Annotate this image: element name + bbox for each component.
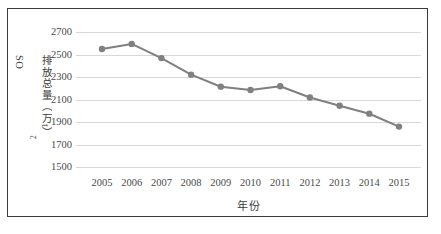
data-point-marker	[307, 94, 313, 100]
y-axis-title-base: SO	[14, 55, 25, 139]
y-axis-title: SO2排放总量（万t）	[26, 9, 42, 185]
plot-container: SO2排放总量（万t） 2700250023002100190017001500…	[8, 9, 429, 218]
x-axis-tick-label: 2009	[210, 177, 231, 189]
chart-figure: SO2排放总量（万t） 2700250023002100190017001500…	[7, 8, 428, 217]
data-point-marker	[247, 87, 253, 93]
data-point-marker	[188, 71, 194, 77]
y-axis-tick-label: 2100	[42, 94, 72, 105]
y-axis-tick-label: 2500	[42, 49, 72, 60]
x-axis-tick-label: 2013	[329, 177, 350, 189]
x-axis-title: 年份	[76, 197, 421, 213]
data-point-marker	[99, 46, 105, 52]
y-axis-tick-label: 2700	[42, 27, 72, 38]
y-axis-tick-labels: 2700250023002100190017001500	[42, 9, 72, 218]
x-axis-tick-label: 2006	[121, 177, 142, 189]
data-point-marker	[336, 103, 342, 109]
data-point-marker	[218, 83, 224, 89]
series-line	[102, 44, 399, 127]
data-point-marker	[129, 41, 135, 47]
data-point-marker	[366, 110, 372, 116]
x-axis-tick-label: 2010	[240, 177, 261, 189]
y-axis-tick-label: 2300	[42, 72, 72, 83]
data-point-marker	[158, 55, 164, 61]
x-axis-tick-label: 2011	[270, 177, 291, 189]
x-axis-tick-label: 2005	[92, 177, 113, 189]
data-point-marker	[396, 123, 402, 129]
x-axis-tick-labels: 2005200620072008200920102011201220132014…	[76, 177, 421, 193]
x-axis-tick-label: 2015	[389, 177, 410, 189]
x-axis-tick-label: 2007	[151, 177, 172, 189]
y-axis-tick-label: 1700	[42, 139, 72, 150]
y-axis-tick-label: 1500	[42, 162, 72, 173]
data-point-marker	[277, 83, 283, 89]
x-axis-tick-label: 2012	[299, 177, 320, 189]
y-axis-tick-label: 1900	[42, 117, 72, 128]
x-axis-tick-label: 2008	[181, 177, 202, 189]
x-axis-tick-label: 2014	[359, 177, 380, 189]
